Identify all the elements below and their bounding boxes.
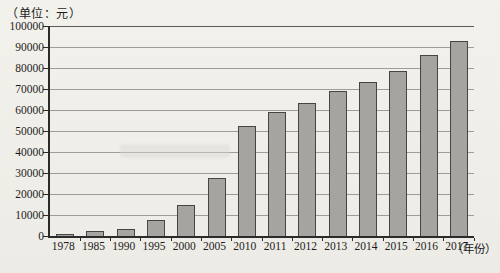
gridline-80000: [50, 68, 474, 69]
bar-2010: [238, 126, 256, 236]
plot-area: [48, 26, 474, 238]
bar-2013: [329, 91, 347, 236]
bar-1990: [117, 229, 135, 236]
gridline-60000: [50, 110, 474, 111]
bar-1978: [56, 234, 74, 236]
y-axis-label-90000: 90000: [0, 41, 44, 53]
x-axis-label-2005: 2005: [198, 240, 232, 252]
x-axis-label-2010: 2010: [228, 240, 262, 252]
gridline-20000: [50, 194, 474, 195]
x-axis-label-1985: 1985: [76, 240, 110, 252]
gridline-30000: [50, 173, 474, 174]
y-axis-label-70000: 70000: [0, 83, 44, 95]
bar-2012: [298, 103, 316, 236]
gridline-10000: [50, 215, 474, 216]
y-axis-label-100000: 100000: [0, 20, 44, 32]
x-axis-label-1990: 1990: [107, 240, 141, 252]
y-axis-label-10000: 10000: [0, 209, 44, 221]
x-axis-label-2012: 2012: [288, 240, 322, 252]
x-axis-label-2015: 2015: [379, 240, 413, 252]
bar-2016: [420, 55, 438, 236]
gridline-40000: [50, 152, 474, 153]
x-axis-label-2013: 2013: [319, 240, 353, 252]
bar-2005: [208, 178, 226, 236]
bar-2014: [359, 82, 377, 236]
bar-2011: [268, 112, 286, 236]
y-axis-label-0: 0: [0, 230, 44, 242]
bar-2000: [177, 205, 195, 237]
bar-2017: [450, 41, 468, 236]
y-axis-label-60000: 60000: [0, 104, 44, 116]
x-axis-label-2014: 2014: [349, 240, 383, 252]
x-axis-label-2017: 2017: [440, 240, 474, 252]
x-axis-label-1978: 1978: [46, 240, 80, 252]
y-axis-label-40000: 40000: [0, 146, 44, 158]
x-axis-label-1995: 1995: [137, 240, 171, 252]
gridline-100000: [50, 26, 474, 27]
y-axis-label-20000: 20000: [0, 188, 44, 200]
bar-1995: [147, 220, 165, 236]
gridline-50000: [50, 131, 474, 132]
x-axis-label-2000: 2000: [167, 240, 201, 252]
y-axis-label-30000: 30000: [0, 167, 44, 179]
bar-2015: [389, 71, 407, 236]
gridline-90000: [50, 47, 474, 48]
y-axis-label-50000: 50000: [0, 125, 44, 137]
scan-smudge: [120, 144, 230, 158]
bar-chart: （单位：元） （年份） 0100002000030000400005000060…: [0, 0, 500, 273]
y-axis-label-80000: 80000: [0, 62, 44, 74]
gridline-70000: [50, 89, 474, 90]
x-axis-label-2011: 2011: [258, 240, 292, 252]
bar-1985: [86, 231, 104, 236]
x-axis-label-2016: 2016: [410, 240, 444, 252]
